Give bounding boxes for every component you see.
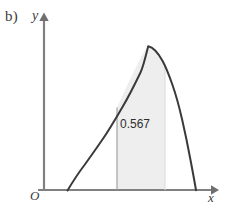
plot-svg bbox=[0, 0, 234, 219]
area-value-label: 0.567 bbox=[120, 118, 150, 130]
part-label: b) bbox=[5, 9, 18, 24]
figure-container: b) y x O 0.567 bbox=[0, 0, 234, 219]
x-axis-label: x bbox=[208, 191, 214, 204]
y-axis-label: y bbox=[32, 9, 38, 23]
y-axis-arrowhead bbox=[39, 13, 48, 22]
origin-label: O bbox=[30, 189, 39, 202]
